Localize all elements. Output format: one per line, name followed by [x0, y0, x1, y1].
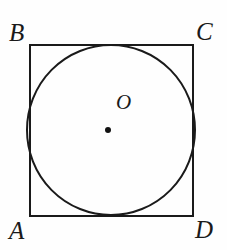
center-label-o: O	[116, 92, 131, 113]
square-shape	[30, 45, 193, 216]
vertex-label-c: C	[196, 19, 213, 44]
vertex-label-a: A	[9, 218, 24, 243]
center-dot-icon	[105, 127, 111, 133]
vertex-label-b: B	[9, 20, 24, 45]
geometry-figure: B C A D O	[0, 0, 227, 250]
figure-canvas	[0, 0, 227, 250]
vertex-label-d: D	[195, 217, 213, 242]
